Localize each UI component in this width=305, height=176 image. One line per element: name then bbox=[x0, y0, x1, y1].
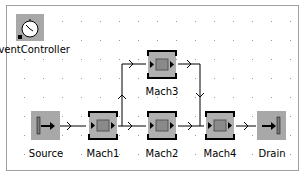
clock-icon bbox=[16, 14, 44, 41]
event-controller-node[interactable] bbox=[16, 14, 44, 41]
machine-icon bbox=[147, 111, 177, 140]
mach4-label: Mach4 bbox=[204, 148, 237, 159]
source-label: Source bbox=[29, 148, 63, 159]
drain-label: Drain bbox=[258, 148, 285, 159]
event-controller-label: EventController bbox=[0, 44, 70, 55]
mach2-node[interactable] bbox=[147, 111, 177, 140]
mach3-node[interactable] bbox=[147, 50, 177, 79]
drain-node[interactable] bbox=[257, 111, 286, 140]
source-icon bbox=[31, 111, 60, 140]
mach1-label: Mach1 bbox=[87, 148, 120, 159]
machine-icon bbox=[205, 111, 235, 140]
mach1-node[interactable] bbox=[88, 111, 118, 140]
machine-icon bbox=[147, 50, 177, 79]
mach2-label: Mach2 bbox=[146, 148, 179, 159]
mach3-label: Mach3 bbox=[146, 86, 179, 97]
machine-icon bbox=[88, 111, 118, 140]
mach4-node[interactable] bbox=[205, 111, 235, 140]
source-node[interactable] bbox=[31, 111, 60, 140]
drain-icon bbox=[257, 111, 286, 140]
